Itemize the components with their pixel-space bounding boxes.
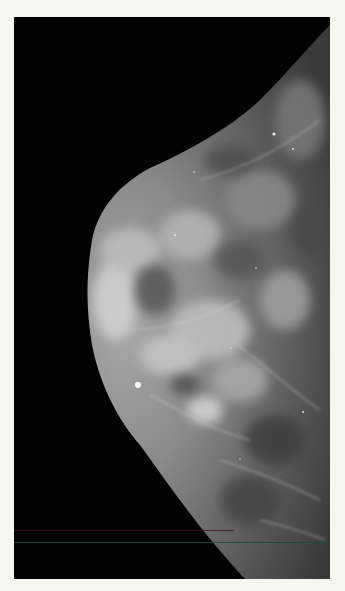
scan-line-red — [14, 530, 234, 531]
mammogram-film — [14, 17, 330, 579]
breast-tissue-image — [14, 17, 330, 579]
scan-line-green — [14, 542, 330, 543]
skin-marker — [135, 382, 141, 388]
